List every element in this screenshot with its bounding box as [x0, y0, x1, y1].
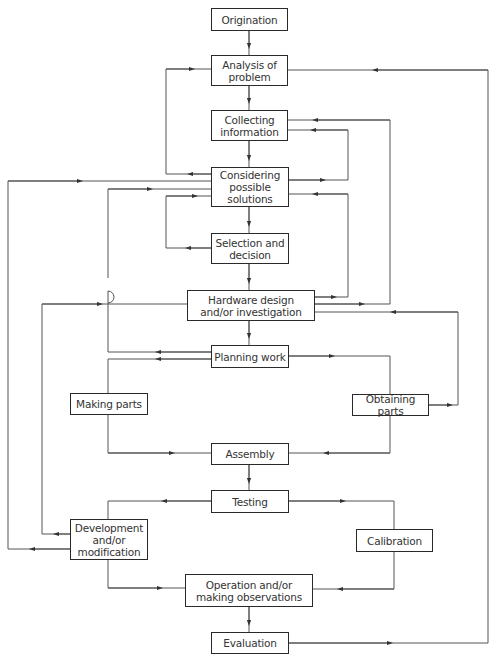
- node-development-modification: Development and/or modification: [70, 519, 148, 560]
- node-obtaining-parts: Obtaining parts: [352, 394, 429, 416]
- node-testing: Testing: [211, 490, 289, 513]
- node-operation-observations: Operation and/or making observations: [185, 574, 313, 607]
- node-origination: Origination: [211, 8, 288, 31]
- node-planning-work: Planning work: [211, 345, 289, 368]
- node-analysis-of-problem: Analysis of problem: [211, 55, 288, 86]
- node-assembly: Assembly: [211, 443, 289, 465]
- design-process-flowchart: Origination Analysis of problem Collecti…: [0, 0, 499, 655]
- node-selection-and-decision: Selection and decision: [211, 233, 289, 264]
- node-hardware-design: Hardware design and/or investigation: [187, 290, 315, 321]
- node-making-parts: Making parts: [70, 393, 148, 415]
- node-evaluation: Evaluation: [211, 632, 289, 654]
- node-considering-possible-solutions: Considering possible solutions: [211, 167, 289, 207]
- node-collecting-information: Collecting information: [211, 110, 288, 141]
- node-calibration: Calibration: [356, 529, 433, 552]
